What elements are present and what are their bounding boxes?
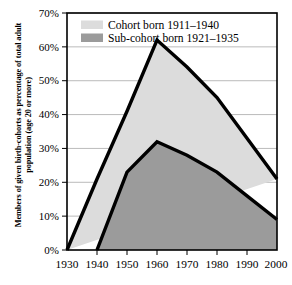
xtick-label-1990: 1990 — [236, 258, 259, 270]
ytick-label-0: 0% — [44, 244, 59, 256]
ytick-label-60: 60% — [39, 41, 59, 53]
ytick-label-10: 10% — [39, 210, 59, 222]
xtick-label-1970: 1970 — [176, 258, 199, 270]
xtick-label-1930: 1930 — [56, 258, 79, 270]
ytick-label-40: 40% — [39, 108, 59, 120]
legend-label-subcohort: Sub-cohort born 1921–1935 — [108, 32, 239, 45]
xtick-label-1960: 1960 — [146, 258, 169, 270]
legend-swatch-subcohort — [81, 34, 103, 43]
ytick-label-30: 30% — [39, 142, 59, 154]
xtick-label-1950: 1950 — [116, 258, 139, 270]
ytick-label-20: 20% — [39, 176, 59, 188]
legend-swatch-cohort — [81, 21, 103, 30]
chart-container: Members of given birth-cohorts as percen… — [0, 0, 292, 285]
ytick-label-50: 50% — [39, 74, 59, 86]
xtick-label-1940: 1940 — [86, 258, 109, 270]
xtick-label-1980: 1980 — [206, 258, 229, 270]
chart-plot: 0% 10% 20% 30% 40% 50% 60% 70% 1930 1940… — [0, 0, 292, 285]
legend-label-cohort: Cohort born 1911–1940 — [108, 19, 219, 32]
xtick-label-2000: 2000 — [265, 258, 288, 270]
ytick-label-70: 70% — [39, 7, 59, 19]
